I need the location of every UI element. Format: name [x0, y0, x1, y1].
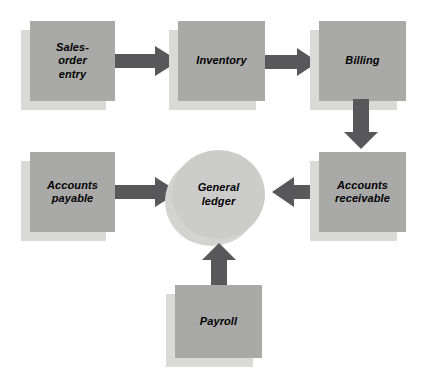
node-face: Accounts receivable	[319, 152, 406, 232]
node-face: Payroll	[175, 285, 262, 358]
node-label: Accounts receivable	[335, 179, 390, 206]
diagram-canvas: Sales- order entry Inventory Billing Acc	[0, 0, 428, 377]
node-label: Payroll	[200, 315, 237, 329]
node-billing[interactable]: Billing	[319, 21, 406, 101]
node-accounts-receivable[interactable]: Accounts receivable	[319, 152, 406, 232]
node-face: Sales- order entry	[30, 21, 115, 101]
node-face: General ledger	[172, 150, 265, 239]
node-label: Sales- order entry	[56, 41, 89, 82]
node-label: Inventory	[196, 54, 246, 68]
node-face: Billing	[319, 21, 406, 101]
arrow-billing-to-accounts-receivable	[344, 99, 378, 149]
node-payroll[interactable]: Payroll	[175, 285, 262, 358]
node-label: General ledger	[198, 181, 240, 208]
node-general-ledger[interactable]: General ledger	[172, 150, 265, 239]
node-label: Accounts payable	[47, 179, 98, 206]
arrow-payroll-to-general-ledger	[202, 243, 236, 288]
node-accounts-payable[interactable]: Accounts payable	[30, 152, 115, 232]
node-label: Billing	[345, 54, 379, 68]
node-sales-order-entry[interactable]: Sales- order entry	[30, 21, 115, 101]
node-face: Accounts payable	[30, 152, 115, 232]
node-inventory[interactable]: Inventory	[178, 21, 265, 101]
node-face: Inventory	[178, 21, 265, 101]
